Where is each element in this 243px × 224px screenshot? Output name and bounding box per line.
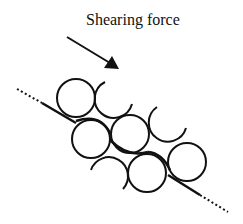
shearing-force-arrow xyxy=(67,37,119,69)
shear-diagram xyxy=(0,0,243,224)
shear-plane-dotted-right xyxy=(200,195,228,212)
particle-circle xyxy=(128,154,166,192)
particle-circle xyxy=(168,143,206,181)
particle-arc xyxy=(91,157,128,189)
particle-arc xyxy=(149,107,186,142)
particle-circle xyxy=(57,79,95,117)
shear-plane-dotted-left xyxy=(17,89,42,103)
particle-arc xyxy=(95,82,132,118)
particle-circle xyxy=(111,115,149,153)
particles-full xyxy=(57,79,206,192)
particle-circle xyxy=(72,120,110,158)
